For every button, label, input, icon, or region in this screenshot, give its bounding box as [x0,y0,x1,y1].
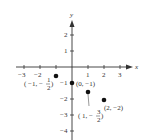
y-axis-arrow-icon [70,20,75,27]
x-tick-label: −2 [34,71,42,79]
data-point [70,81,75,86]
svg-text:): ) [51,80,54,88]
point-label: (2, −2) [104,104,124,112]
x-axis-label: x [134,63,139,71]
y-tick-label: −2 [60,95,68,103]
svg-text:−1, −: −1, − [28,80,43,88]
svg-text:1, −: 1, − [82,112,93,120]
y-tick-label: 2 [64,31,68,39]
leader-line [88,94,89,106]
y-tick-label: −1 [60,79,68,87]
y-tick-label: −4 [60,127,68,135]
y-tick-label: 1 [64,47,68,55]
x-axis-arrow-icon [126,65,133,70]
coordinate-plane: x y −3 −2 1 2 3 2 1 −1 −2 −3 −4 (0, −1) … [0,0,145,140]
data-point [86,90,91,95]
x-tick-label: 1 [86,71,90,79]
x-tick-label: 3 [118,71,122,79]
y-tick-label: −3 [60,111,68,119]
y-axis-label: y [69,11,74,19]
data-point [102,98,107,103]
svg-text:): ) [101,112,104,120]
point-label: (0, −1) [76,80,96,88]
x-tick-label: −3 [18,71,26,79]
point-label-1: ( 1, − 3 2 ) [78,108,104,124]
svg-text:(: ( [24,80,27,88]
data-point [54,74,59,79]
x-tick-label: 2 [102,71,106,79]
svg-text:(: ( [78,112,81,120]
